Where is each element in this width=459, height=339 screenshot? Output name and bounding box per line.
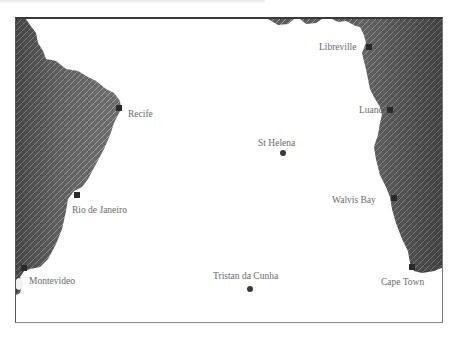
island-dot-marker [247,286,253,292]
city-label: Cape Town [381,278,424,288]
city-square-marker [391,195,397,201]
city-square-marker [116,105,122,111]
city-label: Libreville [319,43,356,53]
city-label: Luanda [359,106,388,116]
south-america-landmass [16,19,121,295]
map-frame: Recife Rio de Janeiro Montevideo Librevi… [15,17,443,323]
river-plate-shore [16,278,23,290]
island-label: Tristan da Cunha [213,272,278,282]
cropped-caption-remnant [0,0,265,3]
city-label: Walvis Bay [332,196,376,206]
city-square-marker [366,44,372,50]
island-dot-marker [280,150,286,156]
city-label: Montevideo [29,277,75,287]
city-square-marker [21,265,27,271]
city-label: Rio de Janeiro [72,206,127,216]
city-square-marker [409,264,415,270]
island-label: St Helena [258,139,295,149]
city-label: Recife [128,110,153,120]
city-square-marker [74,192,80,198]
